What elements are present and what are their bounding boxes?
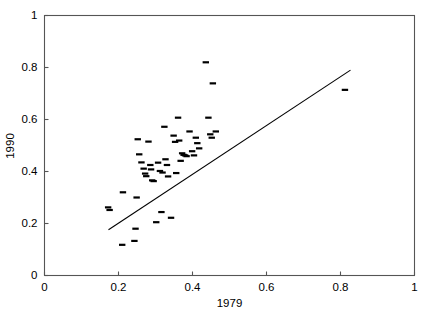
regression-line: [109, 70, 351, 230]
y-tick-label: 0: [31, 270, 37, 282]
plot-canvas: [0, 0, 433, 314]
x-tick-label: 0.8: [333, 282, 349, 294]
x-tick-label: 0.2: [111, 282, 127, 294]
y-tick-label: 0.6: [22, 114, 38, 126]
x-tick-label: 0.4: [185, 282, 201, 294]
y-tick-label: 1: [31, 10, 37, 22]
x-tick-label: 1: [411, 282, 417, 294]
y-tick-label: 0.2: [22, 218, 38, 230]
x-tick-label: 0.6: [259, 282, 275, 294]
y-axis-ticks: [45, 16, 49, 276]
fit-line: [109, 70, 351, 230]
y-tick-label: 0.4: [22, 166, 38, 178]
data-points: [105, 62, 348, 245]
x-axis-title: 1979: [217, 298, 243, 310]
plot-frame: [45, 16, 415, 276]
y-tick-label: 0.8: [22, 62, 38, 74]
scatter-plot-figure: 00.20.40.60.81 00.20.40.60.81 1979 1990: [0, 0, 433, 314]
y-axis-title: 1990: [5, 133, 17, 159]
x-axis-ticks: [45, 272, 415, 276]
x-tick-label: 0: [41, 282, 47, 294]
